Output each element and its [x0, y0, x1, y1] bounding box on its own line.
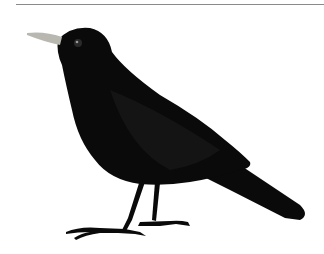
- bird-foot-right: [138, 221, 190, 226]
- bird-eye: [74, 39, 82, 47]
- bird-beak: [27, 33, 62, 46]
- bird-foot-left: [66, 228, 146, 241]
- eye-highlight: [76, 41, 79, 44]
- bird-body: [58, 28, 251, 185]
- bird-leg-right: [152, 182, 160, 221]
- blackbird-illustration: [0, 0, 324, 254]
